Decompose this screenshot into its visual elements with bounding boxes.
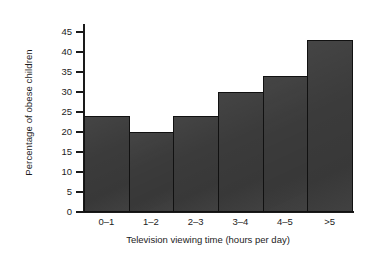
y-axis-tick	[76, 91, 83, 93]
bar	[129, 132, 175, 212]
y-axis-tick	[76, 111, 83, 113]
bar	[218, 92, 264, 212]
bar-series	[84, 24, 352, 212]
y-axis-tick-label: 0	[32, 207, 72, 217]
x-axis-tick-label: 4–5	[263, 216, 308, 227]
x-axis-tick-label: >5	[307, 216, 352, 227]
x-axis-tick-label: 3–4	[218, 216, 263, 227]
y-axis-tick-label: 45	[32, 27, 72, 37]
y-axis-tick-label: 35	[32, 67, 72, 77]
y-axis-tick	[76, 131, 83, 133]
y-axis-tick	[76, 171, 83, 173]
x-axis-tick-label: 1–2	[129, 216, 174, 227]
bar-chart-figure: Percentage of obese children 05101520253…	[0, 0, 370, 258]
y-axis-tick	[76, 31, 83, 33]
y-axis-tick-label: 40	[32, 47, 72, 57]
bar	[84, 116, 130, 212]
y-axis-tick-label: 25	[32, 107, 72, 117]
y-axis-tick-label: 20	[32, 127, 72, 137]
y-axis-tick-label: 15	[32, 147, 72, 157]
y-axis-tick-label: 10	[32, 167, 72, 177]
y-axis-tick-label: 5	[32, 187, 72, 197]
bar	[307, 40, 353, 212]
x-axis-tick-label: 0–1	[84, 216, 129, 227]
x-axis-title: Television viewing time (hours per day)	[0, 234, 370, 245]
bar	[263, 76, 309, 212]
y-axis-tick	[76, 211, 83, 213]
y-axis-tick	[76, 151, 83, 153]
y-axis-tick	[76, 191, 83, 193]
bar	[173, 116, 219, 212]
y-axis-tick	[76, 71, 83, 73]
y-axis-tick-label: 30	[32, 87, 72, 97]
y-axis-tick	[76, 51, 83, 53]
x-axis-tick-label: 2–3	[173, 216, 218, 227]
